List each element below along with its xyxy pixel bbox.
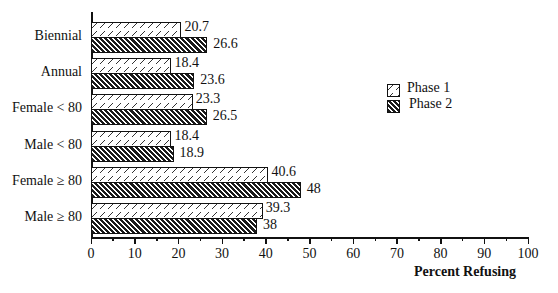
- value-label: 23.3: [196, 91, 221, 107]
- value-label: 20.7: [184, 19, 209, 35]
- x-tick: [200, 237, 202, 241]
- value-label: 48: [307, 181, 321, 197]
- x-tick: [91, 237, 93, 244]
- value-label: 39.3: [266, 200, 291, 216]
- x-tick: [396, 237, 398, 244]
- bar-phase1: [91, 203, 263, 219]
- bar-phase2: [91, 146, 174, 162]
- bar-phase1: [91, 131, 171, 147]
- x-tick-label: 70: [377, 246, 417, 262]
- x-tick: [222, 237, 224, 244]
- x-tick: [440, 237, 442, 244]
- x-tick: [353, 237, 355, 244]
- x-tick: [309, 237, 311, 244]
- bar-phase2: [91, 218, 257, 234]
- value-label: 26.5: [213, 108, 238, 124]
- value-label: 18.4: [174, 128, 199, 144]
- horizontal-bar-chart: BiennialAnnualFemale < 80Male < 80Female…: [0, 0, 558, 293]
- x-tick: [178, 237, 180, 244]
- bar-phase1: [91, 167, 268, 183]
- category-label: Biennial: [0, 28, 82, 44]
- x-tick-label: 20: [158, 246, 198, 262]
- legend-label-phase1: Phase 1: [407, 80, 450, 96]
- x-tick: [134, 237, 136, 244]
- category-label: Female < 80: [0, 100, 82, 116]
- value-label: 26.6: [213, 36, 238, 52]
- x-tick: [331, 237, 333, 241]
- x-axis-label: Percent Refusing: [414, 264, 516, 280]
- x-tick-label: 50: [290, 246, 330, 262]
- x-tick: [287, 237, 289, 241]
- x-tick: [243, 237, 245, 241]
- value-label: 18.9: [180, 145, 205, 161]
- bar-phase1: [91, 22, 181, 38]
- legend-label-phase2: Phase 2: [409, 96, 452, 112]
- value-label: 23.6: [200, 72, 225, 88]
- x-tick-label: 100: [508, 246, 548, 262]
- category-label: Annual: [0, 64, 82, 80]
- x-tick: [375, 237, 377, 241]
- x-tick: [506, 237, 508, 241]
- x-tick: [418, 237, 420, 241]
- x-tick: [265, 237, 267, 244]
- category-label: Male < 80: [0, 137, 82, 153]
- x-tick: [112, 237, 114, 241]
- value-label: 40.6: [271, 164, 296, 180]
- x-tick-label: 30: [202, 246, 242, 262]
- bar-phase2: [91, 37, 207, 53]
- value-label: 38: [263, 217, 277, 233]
- x-tick: [484, 237, 486, 244]
- x-tick: [462, 237, 464, 241]
- legend-swatch-phase2-icon: [387, 100, 400, 113]
- x-tick-label: 40: [246, 246, 286, 262]
- bar-phase2: [91, 182, 301, 198]
- bar-phase1: [91, 58, 171, 74]
- value-label: 18.4: [174, 55, 199, 71]
- category-label: Male ≥ 80: [0, 209, 82, 225]
- x-tick: [528, 237, 530, 244]
- category-label: Female ≥ 80: [0, 173, 82, 189]
- bar-phase2: [91, 109, 207, 125]
- x-tick-label: 10: [115, 246, 155, 262]
- x-tick-label: 60: [333, 246, 373, 262]
- x-tick-label: 0: [71, 246, 111, 262]
- x-tick: [156, 237, 158, 241]
- x-tick-label: 80: [421, 246, 461, 262]
- legend-swatch-phase1-icon: [387, 84, 400, 97]
- x-tick-label: 90: [464, 246, 504, 262]
- bar-phase1: [91, 94, 193, 110]
- bar-phase2: [91, 73, 194, 89]
